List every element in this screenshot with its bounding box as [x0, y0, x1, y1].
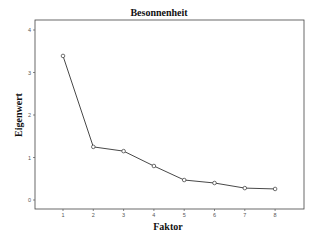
eigenvalue-line — [63, 56, 275, 189]
x-axis-label: Faktor — [138, 221, 198, 232]
x-tick-label: 2 — [92, 212, 95, 218]
data-point-marker — [213, 181, 217, 185]
x-tick-label: 1 — [61, 212, 64, 218]
y-tick-label: 2 — [28, 112, 31, 118]
x-tick-label: 8 — [274, 212, 277, 218]
x-tick-label: 4 — [152, 212, 155, 218]
x-tick-label: 6 — [213, 212, 216, 218]
data-point-marker — [152, 164, 156, 168]
data-point-marker — [182, 178, 186, 182]
data-point-marker — [122, 149, 126, 153]
y-axis-ticks: 01234 — [28, 27, 35, 203]
data-point-marker — [273, 187, 277, 191]
y-axis-label: Eigenwert — [13, 85, 24, 145]
y-tick-label: 0 — [28, 197, 31, 203]
y-tick-label: 3 — [28, 70, 31, 76]
data-point-marker — [92, 145, 96, 149]
plot-frame — [35, 20, 304, 209]
x-tick-label: 7 — [243, 212, 246, 218]
data-point-marker — [61, 54, 65, 58]
y-tick-label: 1 — [28, 155, 31, 161]
data-markers — [61, 54, 277, 191]
x-tick-label: 5 — [183, 212, 186, 218]
x-axis-ticks: 12345678 — [61, 209, 276, 218]
x-tick-label: 3 — [122, 212, 125, 218]
data-point-marker — [243, 186, 247, 190]
scree-plot: 01234 12345678 — [0, 0, 318, 241]
y-tick-label: 4 — [28, 27, 31, 33]
